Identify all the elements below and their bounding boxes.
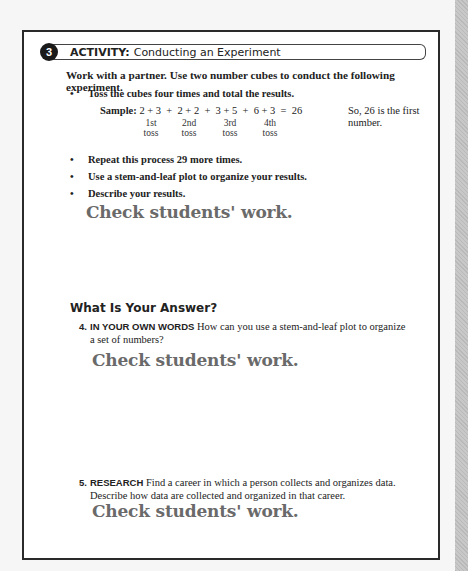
worksheet-page: 3 ACTIVITY: Conducting an Experiment Wor… [0, 0, 468, 571]
question-label: RESEARCH [90, 477, 143, 488]
question-label: IN YOUR OWN WORDS [90, 321, 194, 332]
step-item: Toss the cubes four times and total the … [88, 88, 294, 99]
question-number: 4. [79, 321, 87, 334]
step-item: Use a stem-and-leaf plot to organize you… [88, 171, 307, 182]
activity-header: ACTIVITY: Conducting an Experiment [48, 44, 426, 60]
activity-number-badge: 3 [40, 43, 58, 61]
toss-label: 4thtoss [255, 118, 285, 138]
toss-label: 3rdtoss [215, 118, 245, 138]
sample-label: Sample: [100, 105, 137, 116]
activity-box: 3 ACTIVITY: Conducting an Experiment Wor… [22, 30, 440, 560]
toss-ordinal: 3rd [215, 118, 245, 128]
toss-label: 2ndtoss [174, 118, 204, 138]
toss-word: toss [174, 128, 204, 138]
sample-sum: 2 + 3 + 2 + 2 + 3 + 5 + 6 + 3 = 26 [139, 105, 302, 116]
activity-title: Conducting an Experiment [134, 46, 281, 59]
question-number: 5. [79, 477, 87, 490]
step-item: Describe your results. [88, 188, 185, 199]
toss-word: toss [136, 128, 166, 138]
toss-ordinal: 2nd [174, 118, 204, 128]
question-5-answer: Check students' work. [92, 501, 299, 521]
toss-word: toss [255, 128, 285, 138]
question-5: 5. RESEARCH Find a career in which a per… [90, 477, 410, 502]
toss-ordinal: 1st [136, 118, 166, 128]
sample-expression: Sample: 2 + 3 + 2 + 2 + 3 + 5 + 6 + 3 = … [100, 105, 302, 116]
activity-answer: Check students' work. [86, 202, 293, 222]
question-4: 4. IN YOUR OWN WORDS How can you use a s… [90, 321, 410, 346]
toss-label: 1sttoss [136, 118, 166, 138]
toss-word: toss [215, 128, 245, 138]
step-item: Repeat this process 29 more times. [88, 154, 242, 165]
sample-note: So, 26 is the first number. [348, 105, 428, 129]
toss-ordinal: 4th [255, 118, 285, 128]
activity-label: ACTIVITY: [70, 46, 130, 59]
page-edge-stripe [455, 0, 468, 571]
section-title: What Is Your Answer? [70, 301, 217, 315]
question-4-answer: Check students' work. [92, 350, 299, 370]
